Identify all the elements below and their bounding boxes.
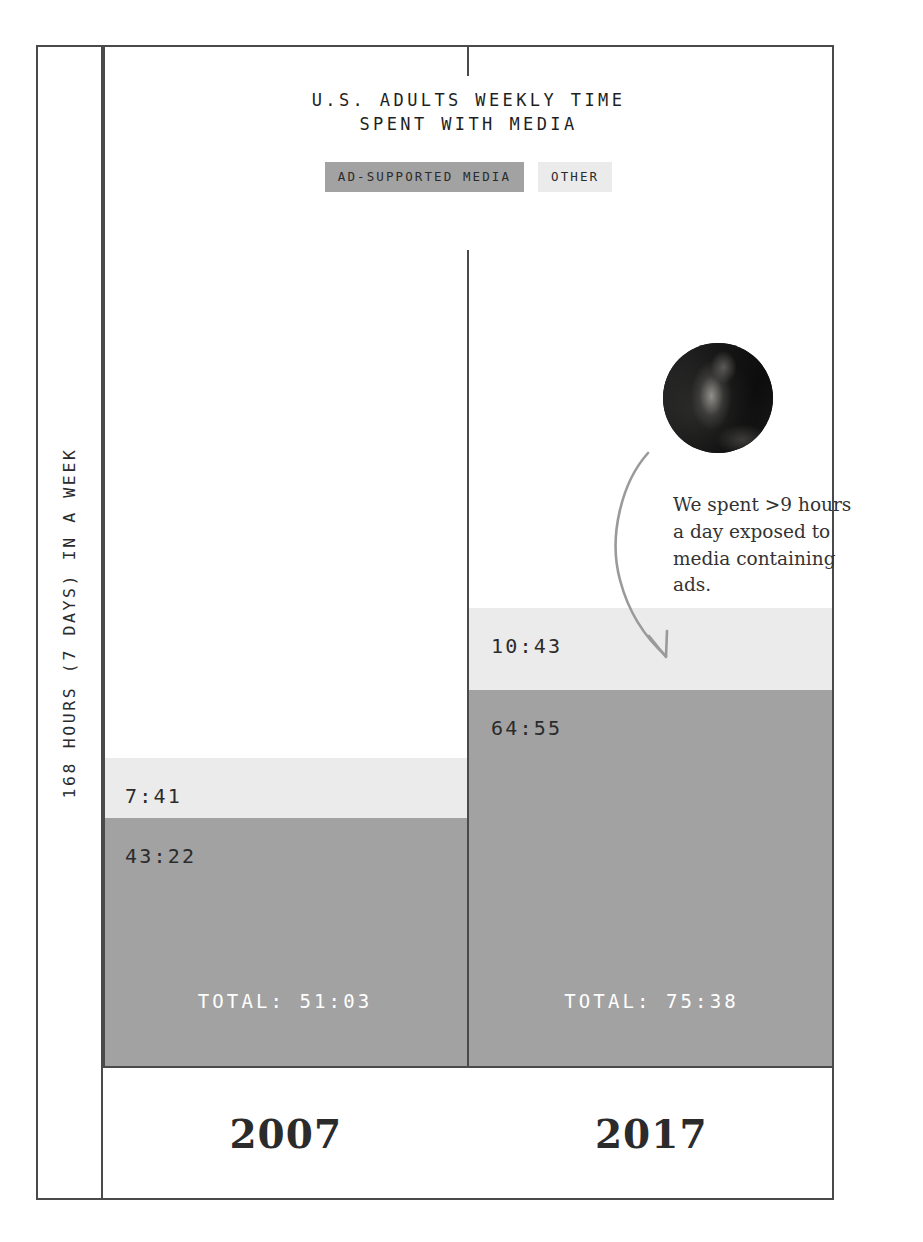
bar-column-2017[interactable]: 10:43 64:55 TOTAL: 75:38	[469, 608, 834, 1068]
legend-label-ad-supported-media: AD-SUPPORTED MEDIA	[338, 169, 511, 184]
bar-total-label-2017: TOTAL: 75:38	[564, 990, 738, 1012]
bar-segment-ad-supported-2007[interactable]: 43:22 TOTAL: 51:03	[103, 818, 467, 1068]
y-axis-label-column: 168 HOURS (7 DAYS) IN A WEEK	[36, 45, 103, 1200]
x-axis-tick-2017: 2017	[469, 1068, 835, 1200]
annotation-photo-thumbnail	[663, 343, 773, 453]
x-axis-tick-2007: 2007	[103, 1068, 469, 1200]
bar-label-ad-supported-2007: 43:22	[125, 844, 196, 868]
legend-item-ad-supported-media[interactable]: AD-SUPPORTED MEDIA	[325, 162, 524, 192]
x-axis: 2007 2017	[103, 1068, 834, 1200]
chart-title: U.S. ADULTS WEEKLY TIME SPENT WITH MEDIA	[103, 88, 834, 136]
bar-label-other-2007: 7:41	[125, 784, 182, 808]
chart-legend: AD-SUPPORTED MEDIA OTHER	[103, 162, 834, 192]
column-divider-top	[467, 45, 469, 76]
bar-label-other-2017: 10:43	[491, 634, 562, 658]
bar-label-ad-supported-2017: 64:55	[491, 716, 562, 740]
x-axis-label-2007: 2007	[229, 1111, 342, 1157]
thumbnail-image	[663, 343, 773, 453]
annotation-text: We spent >9 hours a day exposed to media…	[673, 492, 859, 599]
legend-label-other: OTHER	[551, 169, 599, 184]
legend-item-other[interactable]: OTHER	[538, 162, 612, 192]
bar-segment-ad-supported-2017[interactable]: 64:55 TOTAL: 75:38	[469, 690, 834, 1068]
chart-header: U.S. ADULTS WEEKLY TIME SPENT WITH MEDIA…	[103, 88, 834, 192]
y-axis-label: 168 HOURS (7 DAYS) IN A WEEK	[59, 447, 78, 798]
x-axis-label-2017: 2017	[595, 1111, 708, 1157]
bar-total-label-2007: TOTAL: 51:03	[198, 990, 372, 1012]
bar-segment-other-2017[interactable]: 10:43	[469, 608, 834, 690]
bar-segment-other-2007[interactable]: 7:41	[103, 758, 467, 818]
bar-column-2007[interactable]: 7:41 43:22 TOTAL: 51:03	[103, 758, 467, 1068]
